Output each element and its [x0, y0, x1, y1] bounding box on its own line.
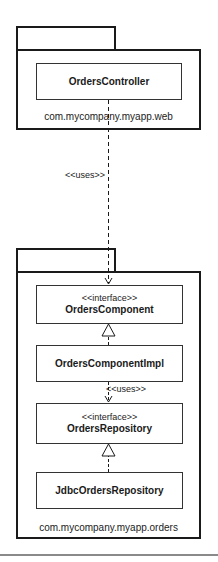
page-divider	[0, 554, 218, 556]
hollow-triangle-icon	[102, 444, 115, 456]
connectors	[0, 0, 218, 562]
hollow-triangle-icon	[102, 324, 115, 336]
